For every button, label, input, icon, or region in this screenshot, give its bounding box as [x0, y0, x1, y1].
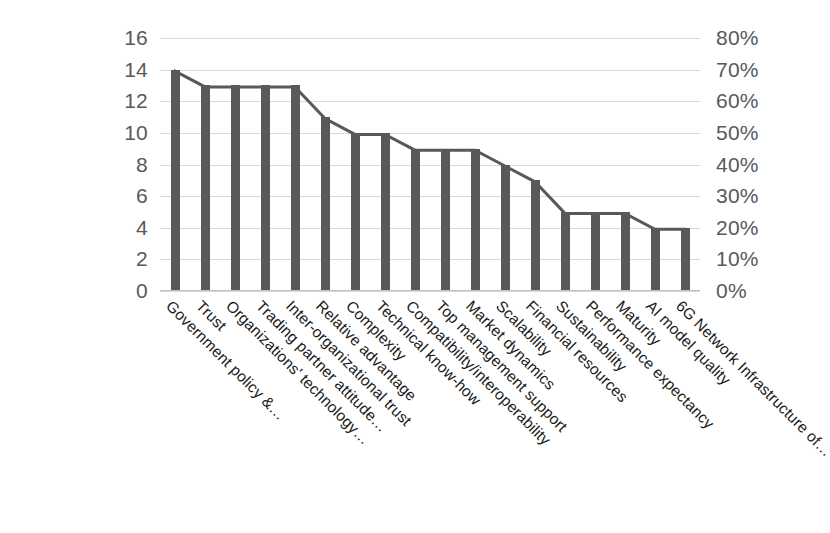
y-axis-tick-label: 10 — [124, 121, 148, 145]
y2-axis-tick-label: 80% — [716, 26, 759, 50]
bar — [321, 117, 330, 291]
bar — [291, 85, 300, 291]
y-axis-tick-label: 16 — [124, 26, 148, 50]
bar-series — [160, 38, 700, 291]
y-axis-left: 0246810121416 — [100, 38, 148, 291]
bar — [681, 228, 690, 291]
bar — [381, 133, 390, 291]
y-axis-tick-label: 0 — [136, 279, 148, 303]
y-axis-tick-label: 6 — [136, 184, 148, 208]
y2-axis-tick-label: 70% — [716, 58, 759, 82]
bar — [531, 180, 540, 291]
y-axis-tick-label: 2 — [136, 247, 148, 271]
bar — [171, 70, 180, 291]
x-axis-category-label: 6G Network Infrastructure of… — [672, 297, 830, 460]
x-axis-labels: Government policy &…TrustOrganizations' … — [160, 291, 700, 531]
bar — [441, 149, 450, 291]
bar — [591, 212, 600, 291]
y2-axis-tick-label: 60% — [716, 89, 759, 113]
bar — [561, 212, 570, 291]
bar — [261, 85, 270, 291]
y-axis-right: 0%10%20%30%40%50%60%70%80% — [716, 38, 792, 291]
bar — [471, 149, 480, 291]
y-axis-tick-label: 8 — [136, 153, 148, 177]
y-axis-tick-label: 12 — [124, 89, 148, 113]
bar — [231, 85, 240, 291]
y2-axis-tick-label: 40% — [716, 153, 759, 177]
y2-axis-tick-label: 0% — [716, 279, 747, 303]
bar — [621, 212, 630, 291]
bar — [501, 165, 510, 292]
y-axis-tick-label: 14 — [124, 58, 148, 82]
y-axis-tick-label: 4 — [136, 216, 148, 240]
bar — [201, 85, 210, 291]
y2-axis-tick-label: 30% — [716, 184, 759, 208]
bar — [411, 149, 420, 291]
y2-axis-tick-label: 20% — [716, 216, 759, 240]
bar — [651, 228, 660, 291]
y2-axis-tick-label: 50% — [716, 121, 759, 145]
bar — [351, 133, 360, 291]
y2-axis-tick-label: 10% — [716, 247, 759, 271]
plot-area — [160, 38, 700, 291]
